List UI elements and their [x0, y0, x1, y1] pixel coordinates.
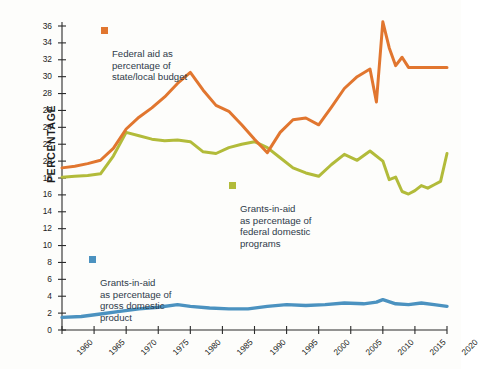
y-tick-label: 22	[32, 139, 52, 149]
x-tick-label: 2020	[459, 337, 479, 357]
legend-label-gross-domestic-product: Grants-in-aid as percentage of gross dom…	[100, 277, 171, 323]
y-tick-label: 10	[32, 240, 52, 250]
legend-federal-domestic-programs: Grants-in-aid as percentage of federal d…	[240, 180, 360, 250]
legend-swatch-federal-aid	[101, 27, 108, 34]
y-tick-label: 6	[32, 274, 52, 284]
y-tick-label: 30	[32, 71, 52, 81]
legend-federal-aid: Federal aid as percentage of state/local…	[112, 25, 232, 83]
y-tick-label: 14	[32, 206, 52, 216]
y-tick-label: 2	[32, 308, 52, 318]
legend-label-federal-domestic-programs: Grants-in-aid as percentage of federal d…	[240, 203, 311, 249]
y-tick-label: 4	[32, 291, 52, 301]
y-tick-label: 20	[32, 156, 52, 166]
y-tick-label: 32	[32, 54, 52, 64]
y-tick-label: 18	[32, 173, 52, 183]
legend-label-federal-aid: Federal aid as percentage of state/local…	[112, 48, 187, 82]
y-tick-label: 36	[32, 21, 52, 31]
y-tick-label: 34	[32, 37, 52, 47]
y-tick-label: 12	[32, 223, 52, 233]
legend-swatch-federal-domestic-programs	[229, 182, 236, 189]
y-tick-label: 8	[32, 257, 52, 267]
legend-swatch-gross-domestic-product	[89, 256, 96, 263]
y-tick-label: 16	[32, 189, 52, 199]
y-tick-label: 24	[32, 122, 52, 132]
y-tick-label: 0	[32, 325, 52, 335]
legend-gross-domestic-product: Grants-in-aid as percentage of gross dom…	[100, 254, 220, 324]
y-tick-label: 26	[32, 105, 52, 115]
y-tick-label: 28	[32, 88, 52, 98]
